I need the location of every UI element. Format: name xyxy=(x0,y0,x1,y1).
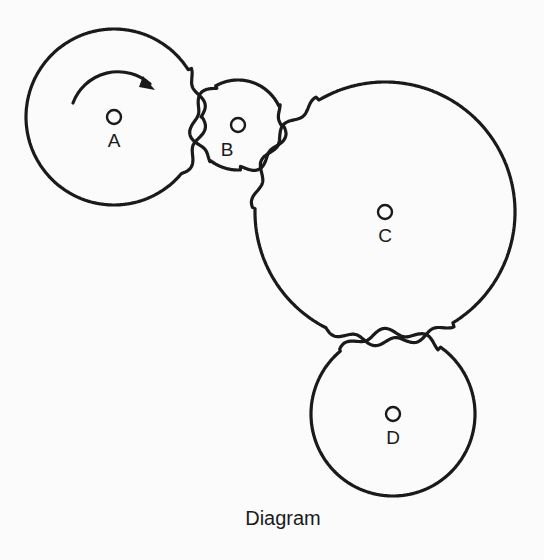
axle-a-icon xyxy=(107,110,121,124)
gear-d-label: D xyxy=(386,427,400,448)
clockwise-rotation-arrow-icon xyxy=(73,72,155,103)
gear-c-label: C xyxy=(378,225,392,246)
axle-b-icon xyxy=(231,118,245,132)
gear-b-label: B xyxy=(221,139,234,160)
axle-d-icon xyxy=(386,407,400,421)
gear-c: C xyxy=(251,82,515,346)
gear-train-diagram: ABCD xyxy=(0,0,544,560)
gear-a-outline xyxy=(26,29,205,205)
gear-d: D xyxy=(311,328,475,496)
axle-c-icon xyxy=(378,205,392,219)
diagram-caption: Diagram xyxy=(0,507,544,530)
gear-d-outline xyxy=(311,328,475,496)
gear-a-label: A xyxy=(108,130,121,151)
gear-c-outline xyxy=(251,82,515,346)
gear-a: A xyxy=(26,29,205,205)
